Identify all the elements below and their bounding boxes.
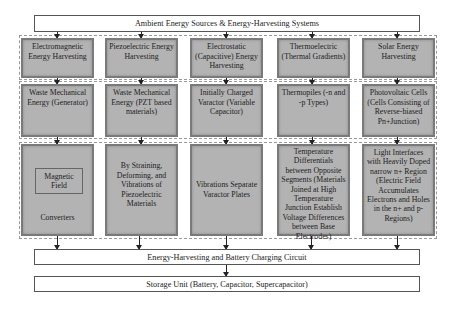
arrow-down-icon [226,137,227,144]
mechanism-label: By Straining, Deforming, and Vibrations … [109,161,174,209]
type-box-piezoelectric: Piezoelectric Energy Harvesting [105,38,178,78]
type-label: Thermoelectric (Thermal Gradients) [282,42,346,61]
source-box-thermoelectric: Thermopiles (-n and -p Types) [277,84,350,137]
type-label: Solar Energy Harvesting [378,42,419,61]
title-box: Ambient Energy Sources & Energy-Harvesti… [34,15,420,32]
converters-label: Converters [23,213,92,223]
mechanism-label: Temperature Differentials between Opposi… [281,147,345,241]
source-box-electrostatic: Initially Charged Varactor (Variable Cap… [190,84,263,137]
source-label: Initially Charged Varactor (Variable Cap… [198,88,255,116]
arrow-down-icon [397,236,398,249]
arrow-down-icon [57,137,58,144]
source-label: Waste Mechanical Energy (Generator) [27,88,88,107]
arrow-down-icon [141,137,142,144]
source-box-electromagnetic: Waste Mechanical Energy (Generator) [21,84,94,137]
type-box-electromagnetic: Electromagnetic Energy Harvesting [21,38,94,78]
type-label: Electrostatic (Capacitive) Energy Harves… [195,42,258,70]
source-label: Waste Mechanical Energy (PZT based mater… [111,88,171,116]
mechanism-box-piezoelectric: By Straining, Deforming, and Vibrations … [105,144,178,236]
charging-circuit-box: Energy-Harvesting and Battery Charging C… [34,249,420,265]
mechanism-box-electromagnetic: Magnetic Field Converters [21,144,94,236]
type-box-solar: Solar Energy Harvesting [362,38,435,78]
source-label: Thermopiles (-n and -p Types) [282,88,346,107]
type-box-thermoelectric: Thermoelectric (Thermal Gradients) [277,38,350,78]
source-label: Photovoltaic Cells (Cells Consisting of … [367,88,429,126]
storage-unit-box: Storage Unit (Battery, Capacitor, Superc… [34,276,420,292]
source-box-piezoelectric: Waste Mechanical Energy (PZT based mater… [105,84,178,137]
mechanism-box-electrostatic: Vibrations Separate Varactor Plates [190,144,263,236]
mechanism-label: Vibrations Separate Varactor Plates [194,180,259,199]
type-label: Electromagnetic Energy Harvesting [28,42,87,61]
source-box-solar: Photovoltaic Cells (Cells Consisting of … [362,84,435,137]
mechanism-box-solar: Light Interfaces with Heavily Doped narr… [362,144,435,236]
title-label: Ambient Energy Sources & Energy-Harvesti… [135,19,319,28]
storage-unit-label: Storage Unit (Battery, Capacitor, Superc… [146,280,307,289]
arrow-down-icon [397,137,398,144]
arrow-down-icon [312,137,313,144]
type-label: Piezoelectric Energy Harvesting [109,42,174,61]
mechanism-label: Light Interfaces with Heavily Doped narr… [367,148,430,223]
arrow-down-icon [57,236,58,249]
magnetic-field-box: Magnetic Field [35,168,83,194]
arrow-down-icon [139,236,140,249]
mechanism-box-thermoelectric: Temperature Differentials between Opposi… [277,144,350,236]
arrow-down-icon [226,265,227,276]
charging-circuit-label: Energy-Harvesting and Battery Charging C… [147,253,306,262]
type-box-electrostatic: Electrostatic (Capacitive) Energy Harves… [190,38,263,78]
mechanism-inner-label: Magnetic Field [36,172,82,191]
arrow-down-icon [311,236,312,249]
arrow-down-icon [226,236,227,249]
